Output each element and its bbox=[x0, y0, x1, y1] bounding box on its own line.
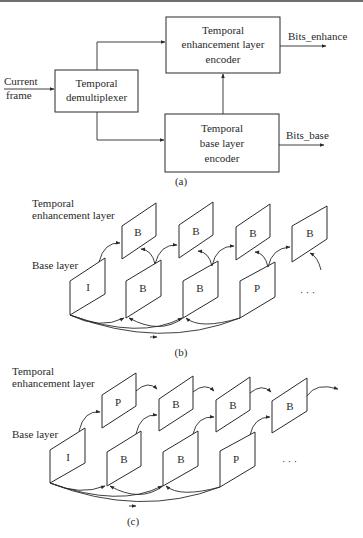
demux-to-base-arrow bbox=[97, 112, 164, 140]
prediction-arrow bbox=[193, 417, 214, 434]
prediction-arrow bbox=[70, 315, 124, 323]
frame-type: B bbox=[139, 282, 146, 294]
figure-c-structure: Temporal enhancement layer Base layer P … bbox=[12, 365, 338, 528]
ellipsis: · · · bbox=[300, 287, 315, 298]
base-frame-3: B bbox=[183, 261, 218, 318]
enhancement-frame-1: B bbox=[122, 203, 156, 259]
prediction-arrow bbox=[250, 417, 270, 435]
prediction-arrow bbox=[141, 249, 155, 264]
base-layer-label: Base layer bbox=[12, 428, 58, 440]
enhancement-frame-2: B bbox=[179, 202, 213, 258]
bits-base-label: Bits_base bbox=[286, 129, 329, 141]
caption-a: (a) bbox=[175, 175, 188, 188]
ellipsis: · · · bbox=[282, 456, 297, 467]
frame-type: P bbox=[115, 396, 121, 408]
frame-type: B bbox=[177, 453, 184, 465]
frame-type: B bbox=[229, 399, 236, 411]
prediction-arrow bbox=[110, 486, 163, 495]
enhance-label-line1: Temporal bbox=[202, 24, 244, 36]
base-frame-4: P bbox=[240, 262, 275, 318]
caption-b: (b) bbox=[175, 346, 188, 359]
demux-label-line2: demultiplexer bbox=[66, 91, 127, 103]
frame-type: P bbox=[254, 282, 260, 294]
frame-type: B bbox=[134, 226, 141, 238]
enhancement-layer-label-line2: enhancement layer bbox=[12, 377, 95, 389]
figure-a-block-diagram: Current frame Temporal demultiplexer Tem… bbox=[4, 17, 347, 188]
base-label-line2: base layer bbox=[200, 137, 245, 149]
figure-canvas: Current frame Temporal demultiplexer Tem… bbox=[0, 0, 363, 538]
prediction-arrow bbox=[99, 243, 120, 262]
prediction-arrow bbox=[136, 385, 157, 391]
figure-b-structure: Temporal enhancement layer Base layer B … bbox=[32, 197, 327, 359]
frame-type: B bbox=[286, 400, 293, 412]
enhancement-frame-4: B bbox=[272, 378, 307, 433]
enhancement-layer-label-line1: Temporal bbox=[32, 197, 74, 209]
prediction-arrow bbox=[136, 415, 157, 434]
prediction-arrow bbox=[129, 318, 183, 327]
caption-c: (c) bbox=[127, 515, 140, 528]
prediction-arrow bbox=[79, 412, 100, 431]
prediction-arrow bbox=[310, 253, 321, 270]
frame-type: B bbox=[120, 453, 127, 465]
prediction-arrow bbox=[193, 387, 214, 392]
enhance-label-line2: enhancement layer bbox=[182, 38, 265, 50]
frame-type: I bbox=[66, 451, 70, 463]
base-frame-2: B bbox=[126, 260, 161, 318]
frame-type: B bbox=[172, 398, 179, 410]
demux-label-line1: Temporal bbox=[76, 77, 118, 89]
enhancement-frame-1: P bbox=[102, 373, 136, 428]
frame-type: B bbox=[249, 227, 256, 239]
prediction-arrow bbox=[198, 251, 212, 266]
enhancement-layer-label-line2: enhancement layer bbox=[32, 209, 115, 221]
enhancement-layer-label-line1: Temporal bbox=[12, 365, 54, 377]
enhancement-frame-3: B bbox=[216, 377, 250, 432]
base-layer-label: Base layer bbox=[32, 259, 78, 271]
input-label-line2: frame bbox=[6, 89, 32, 101]
enhancement-frame-3: B bbox=[236, 204, 270, 260]
prediction-arrow bbox=[255, 252, 268, 267]
prediction-arrow bbox=[166, 486, 220, 492]
prediction-arrow bbox=[70, 315, 240, 333]
frame-type: B bbox=[306, 227, 313, 239]
input-label-line1: Current bbox=[4, 75, 38, 87]
base-label-line1: Temporal bbox=[201, 122, 243, 134]
base-label-line3: encoder bbox=[205, 152, 240, 164]
demux-to-enhance-arrow bbox=[97, 42, 165, 70]
enhance-label-line3: encoder bbox=[206, 53, 241, 65]
prediction-arrow bbox=[50, 483, 105, 490]
bits-enhance-label: Bits_enhance bbox=[288, 30, 347, 42]
frame-type: P bbox=[233, 453, 239, 465]
frame-type: B bbox=[192, 225, 199, 237]
prediction-arrow bbox=[250, 388, 271, 393]
base-frame-3: B bbox=[163, 431, 198, 486]
base-frame-4: P bbox=[220, 432, 255, 487]
enhancement-frame-4: B bbox=[292, 206, 327, 262]
frame-type: B bbox=[196, 282, 203, 294]
enhancement-frame-2: B bbox=[159, 376, 193, 431]
base-frame-2: B bbox=[107, 431, 141, 486]
frame-type: I bbox=[86, 281, 90, 293]
prediction-arrow bbox=[307, 387, 338, 396]
